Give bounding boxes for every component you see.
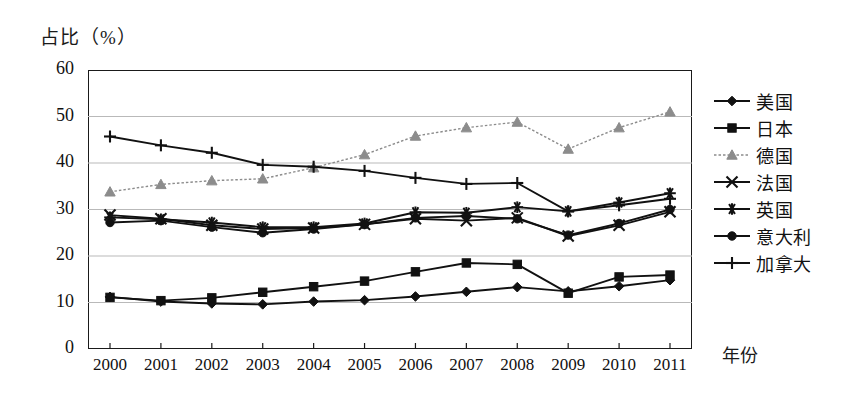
- series-德国: [105, 107, 675, 196]
- y-tick-label: 0: [30, 337, 74, 358]
- legend-label: 英国: [756, 196, 793, 222]
- legend-marker-square-icon: [712, 117, 752, 139]
- legend-label: 日本: [756, 115, 793, 141]
- legend-marker-asterisk-icon: [712, 198, 752, 220]
- legend-item-意大利[interactable]: 意大利: [712, 223, 812, 248]
- x-tick-label: 2000: [81, 355, 139, 375]
- x-tick-label: 2002: [183, 355, 241, 375]
- legend-label: 美国: [756, 88, 793, 114]
- x-tick-label: 2001: [132, 355, 190, 375]
- chart-legend: 美国日本德国法国英国意大利加拿大: [712, 88, 812, 275]
- chart-root: 占比（%） 0102030405060 20002001200220032004…: [0, 0, 861, 410]
- x-tick-label: 2004: [285, 355, 343, 375]
- series-line: [110, 136, 670, 211]
- x-axis-title: 年份: [722, 341, 758, 367]
- x-tick-label: 2006: [386, 355, 444, 375]
- y-tick-label: 20: [30, 244, 74, 265]
- series-加拿大: [104, 130, 676, 217]
- y-tick-label: 50: [30, 105, 74, 126]
- y-tick-label: 60: [30, 58, 74, 79]
- series-line: [110, 212, 670, 236]
- legend-marker-diamond-icon: [712, 90, 752, 112]
- x-tick-label: 2003: [234, 355, 292, 375]
- y-tick-label: 30: [30, 198, 74, 219]
- series-英国: [104, 187, 676, 233]
- legend-label: 意大利: [756, 223, 812, 249]
- y-tick-label: 40: [30, 151, 74, 172]
- legend-item-德国[interactable]: 德国: [712, 142, 812, 167]
- x-tick-label: 2009: [539, 355, 597, 375]
- legend-marker-cross-icon: [712, 171, 752, 193]
- legend-item-法国[interactable]: 法国: [712, 169, 812, 194]
- series-line: [110, 112, 670, 192]
- legend-item-美国[interactable]: 美国: [712, 88, 812, 113]
- x-tick-label: 2010: [590, 355, 648, 375]
- x-tick-label: 2011: [641, 355, 699, 375]
- y-tick-label: 10: [30, 291, 74, 312]
- x-tick-label: 2008: [488, 355, 546, 375]
- x-tick-label: 2007: [437, 355, 495, 375]
- legend-marker-plus-icon: [712, 252, 752, 274]
- x-tick-label: 2005: [336, 355, 394, 375]
- legend-marker-circle-icon: [712, 225, 752, 247]
- legend-marker-triangle-icon: [712, 144, 752, 166]
- legend-label: 法国: [756, 169, 793, 195]
- series-line: [110, 263, 670, 301]
- legend-item-日本[interactable]: 日本: [712, 115, 812, 140]
- series-line: [110, 280, 670, 304]
- legend-label: 加拿大: [756, 250, 812, 276]
- legend-label: 德国: [756, 142, 793, 168]
- series-美国: [105, 275, 675, 309]
- legend-item-加拿大[interactable]: 加拿大: [712, 250, 812, 275]
- legend-item-英国[interactable]: 英国: [712, 196, 812, 221]
